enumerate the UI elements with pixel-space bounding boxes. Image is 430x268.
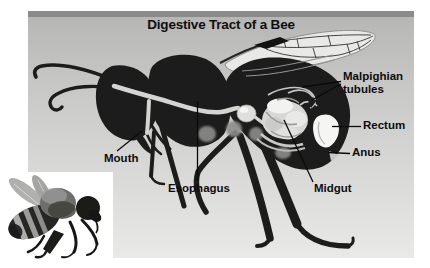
bee-diagram-art: [0, 0, 430, 268]
label-anus: Anus: [352, 146, 381, 159]
figure: Digestive Tract of a Bee: [0, 0, 430, 268]
label-mouth: Mouth: [104, 152, 138, 165]
label-midgut: Midgut: [314, 182, 352, 195]
label-malpighian-tubules: Malpighian tubules: [343, 70, 413, 96]
mouth-tube: [147, 101, 149, 133]
label-rectum: Rectum: [363, 119, 405, 132]
photo-bee: [0, 172, 113, 268]
mouthparts: [136, 135, 153, 155]
label-esophagus: Esophagus: [168, 182, 230, 195]
